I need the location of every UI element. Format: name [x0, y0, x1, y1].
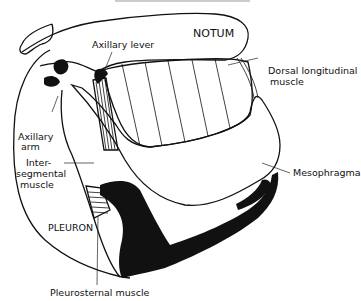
label-axillary-lever: Axillary lever: [92, 39, 154, 50]
label-axillary-arm-2: arm: [21, 141, 40, 152]
thorax-diagram: NOTUM Axillary lever Dorsal longitudinal…: [0, 0, 361, 301]
label-mesophragma: Mesophragma: [293, 167, 361, 178]
label-intersegmental-1: Inter-: [26, 157, 51, 168]
label-pleuron: PLEURON: [48, 222, 93, 233]
label-intersegmental-2: segmental: [16, 168, 66, 179]
label-dorsal-longitudinal-2: muscle: [270, 76, 304, 87]
label-dorsal-longitudinal-1: Dorsal longitudinal: [268, 65, 358, 76]
label-notum: NOTUM: [193, 27, 234, 40]
label-pleurosternal-muscle: Pleurosternal muscle: [50, 287, 150, 298]
dorsal-longitudinal-muscle: [103, 58, 258, 147]
top-caption-fragment: [115, 0, 250, 2]
label-intersegmental-3: muscle: [20, 179, 54, 190]
